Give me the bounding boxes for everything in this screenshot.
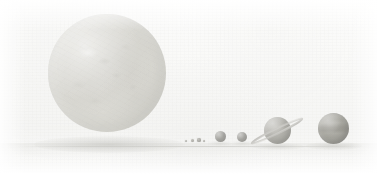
- sun-surface-granulation: [48, 14, 166, 132]
- sun-sphere: [48, 14, 166, 132]
- earth-sphere: [197, 138, 200, 141]
- venus-sphere: [191, 139, 194, 142]
- jupiter-sphere: [318, 113, 349, 144]
- top-fade: [0, 0, 377, 30]
- saturn-sphere: [264, 117, 291, 144]
- solar-system-scale-image: [0, 0, 377, 178]
- right-fade: [351, 0, 377, 178]
- bottom-fade: [0, 156, 377, 178]
- uranus-sphere: [215, 131, 226, 142]
- horizon-line: [14, 146, 371, 147]
- left-fade: [0, 0, 26, 178]
